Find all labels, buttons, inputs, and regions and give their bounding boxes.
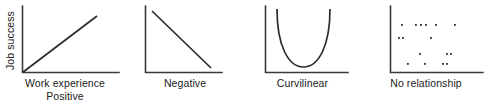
caption-line-1: Negative: [130, 77, 240, 90]
panel-positive: Job success Work experience Positive: [0, 0, 130, 103]
panel-caption-positive: Work experience Positive: [0, 77, 130, 102]
curvilinear-u-curve: [277, 9, 330, 67]
negative-trend-line: [152, 11, 211, 68]
caption-line-1: No relationship: [365, 77, 487, 90]
panel-no-relationship: No relationship: [365, 0, 487, 103]
panel-curvilinear: Curvilinear: [240, 0, 365, 103]
axis-lines: [391, 6, 484, 73]
scatter-dot: [424, 63, 426, 65]
panel-caption-no-relationship: No relationship: [365, 77, 487, 90]
plot-area-curvilinear: [240, 0, 365, 78]
caption-line-2: Positive: [0, 90, 130, 103]
scatter-dot: [402, 37, 404, 39]
panel-negative: Negative: [130, 0, 240, 103]
correlation-types-figure: Job success Work experience Positive Neg…: [0, 0, 487, 103]
scatter-dot: [415, 24, 417, 26]
scatter-dot: [446, 53, 448, 55]
panel-caption-negative: Negative: [130, 77, 240, 90]
plot-area-no-relationship: [365, 0, 487, 78]
scatter-dot: [435, 24, 437, 26]
plot-area-negative: [130, 0, 240, 78]
scatter-dot: [425, 24, 427, 26]
scatter-dot: [398, 37, 400, 39]
caption-line-1: Work experience: [0, 77, 130, 90]
positive-trend-line: [23, 16, 97, 72]
plot-area-positive: [0, 0, 130, 78]
panel-caption-curvilinear: Curvilinear: [240, 77, 365, 90]
caption-line-1: Curvilinear: [240, 77, 365, 90]
scatter-dot: [419, 53, 421, 55]
scatter-dot: [430, 37, 432, 39]
scatter-points: [398, 24, 456, 65]
scatter-dot: [442, 63, 444, 65]
scatter-dot: [420, 24, 422, 26]
scatter-dot: [454, 24, 456, 26]
scatter-dot: [407, 63, 409, 65]
scatter-dot: [446, 63, 448, 65]
scatter-dot: [450, 53, 452, 55]
scatter-dot: [401, 24, 403, 26]
